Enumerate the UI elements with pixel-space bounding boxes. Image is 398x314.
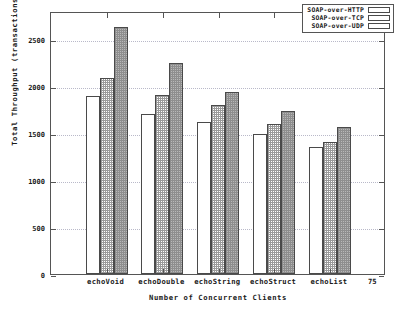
y-tick-mark <box>51 182 56 183</box>
bar-echoStruct-SOAP-over-UDP <box>281 111 295 274</box>
bar-group <box>309 127 351 274</box>
y-tick-label: 1500 <box>9 131 45 139</box>
y-tick-mark <box>51 276 56 277</box>
x-tick-label-echoString: echoString <box>187 277 247 286</box>
x-tick-mark <box>219 13 220 18</box>
bar-echoString-SOAP-over-UDP <box>225 92 239 274</box>
x-tick-mark <box>163 269 164 274</box>
y-tick-label: 2000 <box>9 84 45 92</box>
x-tick-mark <box>107 13 108 18</box>
chart-legend: SOAP-over-HTTP SOAP-over-TCP SOAP-over-U… <box>302 4 394 33</box>
x-tick-mark <box>274 13 275 18</box>
y-tick-label: 2500 <box>9 37 45 45</box>
x-tick-label-echoDouble: echoDouble <box>131 277 191 286</box>
legend-item-1: SOAP-over-TCP <box>307 14 390 22</box>
x-tick-mark <box>219 269 220 274</box>
legend-item-2: SOAP-over-UDP <box>307 22 390 30</box>
x-tick-mark <box>163 13 164 18</box>
y-tick-mark <box>51 88 56 89</box>
y-tick-mark <box>379 229 384 230</box>
x-tick-mark <box>274 269 275 274</box>
legend-item-0: SOAP-over-HTTP <box>307 6 390 14</box>
bar-echoString-SOAP-over-HTTP <box>197 122 211 274</box>
y-tick-label: 1000 <box>9 178 45 186</box>
y-tick-label: 0 <box>9 272 45 280</box>
legend-swatch-0 <box>368 7 390 13</box>
y-tick-mark <box>51 229 56 230</box>
plot-area: 05001000150020002500 <box>50 12 385 275</box>
x-axis-title: Number of Concurrent Clients <box>50 293 386 302</box>
bar-echoDouble-SOAP-over-HTTP <box>141 114 155 274</box>
y-tick-mark <box>379 135 384 136</box>
x-axis-end-label: 75 <box>368 277 398 286</box>
y-tick-label: 500 <box>9 225 45 233</box>
x-tick-mark <box>107 269 108 274</box>
legend-swatch-1 <box>368 15 390 21</box>
y-tick-mark <box>51 41 56 42</box>
bar-echoVoid-SOAP-over-TCP <box>100 78 114 274</box>
y-tick-mark <box>379 41 384 42</box>
bar-echoVoid-SOAP-over-UDP <box>114 27 128 274</box>
bar-echoString-SOAP-over-TCP <box>211 105 225 274</box>
bar-echoDouble-SOAP-over-UDP <box>169 63 183 274</box>
x-tick-mark <box>330 269 331 274</box>
bar-echoList-SOAP-over-TCP <box>323 142 337 274</box>
bar-group <box>253 111 295 274</box>
bar-echoList-SOAP-over-HTTP <box>309 147 323 274</box>
bar-echoDouble-SOAP-over-TCP <box>155 95 169 274</box>
legend-label-2: SOAP-over-UDP <box>311 22 364 30</box>
x-tick-label-echoVoid: echoVoid <box>76 277 136 286</box>
y-tick-mark <box>379 182 384 183</box>
legend-swatch-2 <box>368 23 390 29</box>
chart-figure: Total Throughput (transactions/s) 050010… <box>0 0 398 314</box>
bar-group <box>197 92 239 274</box>
bar-group <box>141 63 183 274</box>
bar-echoList-SOAP-over-UDP <box>337 127 351 274</box>
bar-echoStruct-SOAP-over-TCP <box>267 124 281 274</box>
y-tick-mark <box>379 88 384 89</box>
x-tick-label-echoList: echoList <box>299 277 359 286</box>
bar-group <box>86 27 128 274</box>
legend-label-0: SOAP-over-HTTP <box>307 6 364 14</box>
y-tick-mark <box>51 135 56 136</box>
bar-echoStruct-SOAP-over-HTTP <box>253 134 267 274</box>
bar-echoVoid-SOAP-over-HTTP <box>86 96 100 274</box>
y-axis-title: Total Throughput (transactions/s) <box>10 0 19 165</box>
legend-label-1: SOAP-over-TCP <box>311 14 364 22</box>
x-tick-label-echoStruct: echoStruct <box>243 277 303 286</box>
